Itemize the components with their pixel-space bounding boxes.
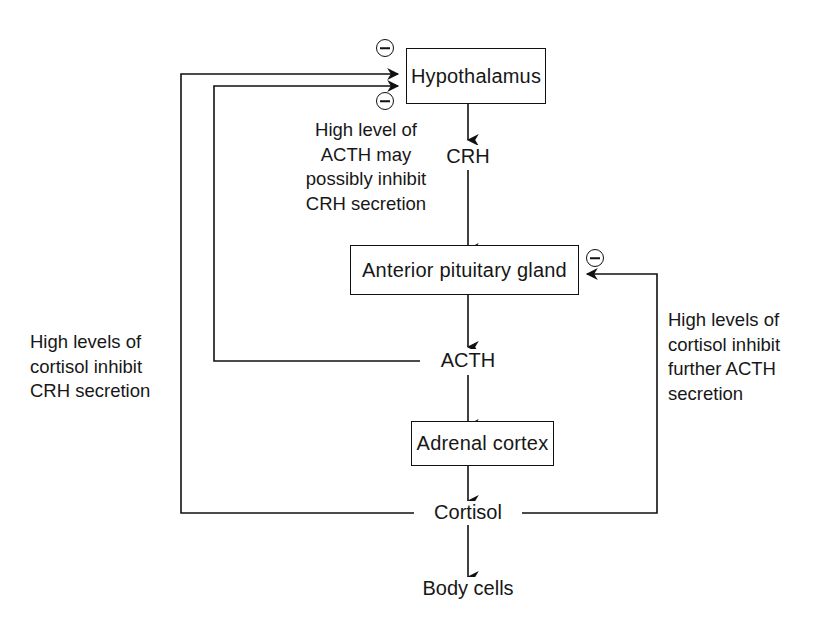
annotation-cortisol-inhibits-acth: High levels of cortisol inhibit further … xyxy=(668,308,818,406)
minus-sign-icon-pituitary xyxy=(586,249,604,267)
node-anterior-pituitary-gland-label: Anterior pituitary gland xyxy=(362,259,567,282)
label-body-cells: Body cells xyxy=(398,577,538,601)
minus-sign-icon-hypothalamus-upper xyxy=(376,39,394,57)
node-hypothalamus[interactable]: Hypothalamus xyxy=(406,48,546,104)
minus-sign-icon-hypothalamus-lower xyxy=(376,92,394,110)
annotation-acth-inhibits-crh: High level of ACTH may possibly inhibit … xyxy=(290,118,442,216)
node-adrenal-cortex-label: Adrenal cortex xyxy=(417,432,549,455)
hpa-axis-diagram: Hypothalamus Anterior pituitary gland Ad… xyxy=(0,0,824,630)
edge-cortisol-feedback-to-pituitary xyxy=(512,274,657,513)
node-anterior-pituitary-gland[interactable]: Anterior pituitary gland xyxy=(350,245,579,295)
label-crh-text: CRH xyxy=(446,145,489,167)
label-cortisol-text: Cortisol xyxy=(434,501,502,523)
label-cortisol: Cortisol xyxy=(414,501,522,525)
label-body-cells-text: Body cells xyxy=(422,577,513,599)
label-acth: ACTH xyxy=(420,349,516,373)
node-hypothalamus-label: Hypothalamus xyxy=(411,65,541,88)
label-acth-text: ACTH xyxy=(441,349,495,371)
annotation-cortisol-inhibits-crh: High levels of cortisol inhibit CRH secr… xyxy=(30,330,190,404)
node-adrenal-cortex[interactable]: Adrenal cortex xyxy=(411,421,554,466)
